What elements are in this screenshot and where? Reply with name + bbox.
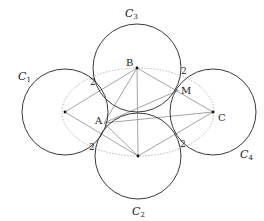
tangent-label-1: 2 (90, 77, 96, 87)
segment-a-o2 (104, 123, 138, 156)
tangent-label-3: 2 (89, 142, 95, 152)
segment-a-b (104, 68, 137, 123)
circle-label-c1: C1 (18, 70, 31, 84)
point-label-b: B (126, 57, 133, 68)
point-o2 (137, 155, 140, 158)
point-o1 (64, 111, 67, 114)
circle-label-c3: C3 (125, 7, 138, 21)
point-label-a: A (94, 115, 103, 126)
tangent-label-2: 2 (181, 66, 187, 76)
circle-label-c4: C4 (240, 148, 253, 162)
circle-label-c2: C2 (132, 205, 145, 219)
point-c (212, 111, 215, 114)
point-label-c: C (218, 112, 226, 123)
point-b (136, 67, 139, 70)
segment-o1-b (65, 68, 137, 112)
tangent-label-4: 2 (180, 139, 186, 149)
point-label-m: M (181, 85, 191, 96)
geometry-diagram: C1C2C3C4BCAM2222 (0, 0, 264, 221)
